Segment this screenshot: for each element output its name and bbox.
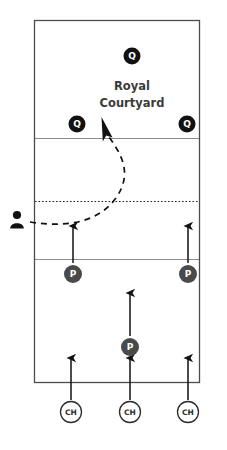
unit-label: CH	[124, 408, 136, 417]
unit-marker-q-left[interactable]: Q	[69, 116, 86, 133]
unit-marker-ch-right[interactable]: CH	[178, 402, 199, 423]
person-icon	[10, 211, 24, 229]
unit-marker-ch-mid[interactable]: CH	[120, 402, 141, 423]
unit-label: CH	[65, 408, 77, 417]
unit-label: P	[185, 269, 192, 279]
unit-label: Q	[183, 119, 191, 129]
unit-marker-q-top[interactable]: Q	[124, 48, 141, 65]
unit-marker-p-left[interactable]: P	[64, 265, 82, 283]
unit-label: CH	[182, 408, 194, 417]
tactical-map-svg: Royal Courtyard Q Q Q P P P	[0, 0, 227, 450]
unit-marker-p-right[interactable]: P	[179, 265, 197, 283]
unit-marker-q-right[interactable]: Q	[179, 116, 196, 133]
zone-title-line1: Royal	[114, 79, 150, 93]
zone-title-line2: Courtyard	[100, 96, 165, 110]
unit-marker-p-center[interactable]: P	[121, 338, 139, 356]
diagram-canvas: Royal Courtyard Q Q Q P P P	[0, 0, 227, 450]
unit-label: P	[127, 342, 134, 352]
unit-marker-ch-left[interactable]: CH	[61, 402, 82, 423]
unit-label: P	[70, 269, 77, 279]
unit-label: Q	[73, 119, 81, 129]
dashed-infiltration-route	[30, 133, 125, 224]
route-arrow-tip-icon	[102, 117, 113, 142]
unit-label: Q	[128, 51, 136, 61]
